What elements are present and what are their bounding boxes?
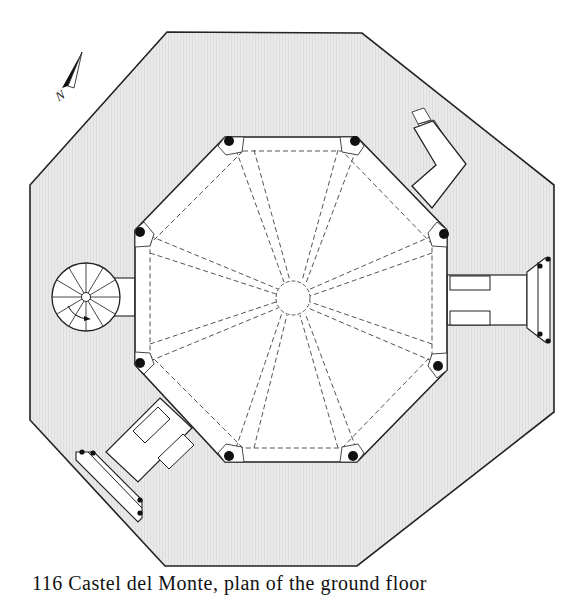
north-arrow-icon: N: [52, 52, 82, 105]
svg-text:N: N: [52, 86, 69, 104]
figure-caption: 116 Castel del Monte, plan of the ground…: [32, 572, 427, 595]
central-oculus-circle: [276, 281, 310, 315]
